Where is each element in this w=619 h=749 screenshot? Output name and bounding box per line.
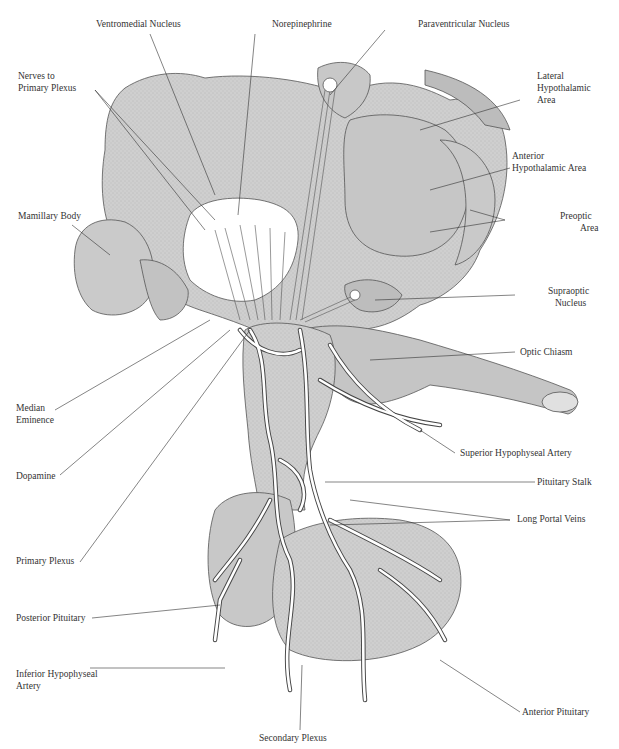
supraoptic-nerve-cells	[350, 290, 360, 300]
label-primary-plexus: Primary Plexus	[16, 555, 74, 567]
label-optic-chiasm: Optic Chiasm	[520, 346, 573, 358]
label-pituitary-stalk: Pituitary Stalk	[537, 476, 592, 488]
paraventricular-nerve-cells	[323, 78, 337, 92]
label-ventromedial-nucleus: Ventromedial Nucleus	[96, 18, 181, 30]
label-superior-hypophyseal-artery: Superior Hypophyseal Artery	[460, 447, 572, 459]
label-anterior-pituitary: Anterior Pituitary	[522, 706, 589, 718]
label-anterior-hypothalamic-area: AnteriorHypothalamic Area	[512, 150, 586, 174]
label-secondary-plexus: Secondary Plexus	[259, 732, 327, 744]
label-nerves-to-primary-plexus: Nerves toPrimary Plexus	[18, 70, 76, 94]
label-posterior-pituitary: Posterior Pituitary	[16, 612, 85, 624]
label-supraoptic-nucleus: SupraopticNucleus	[548, 285, 589, 309]
label-dopamine: Dopamine	[16, 470, 56, 482]
label-norepinephrine: Norepinephrine	[272, 18, 332, 30]
hypothalamus-pituitary-diagram	[0, 0, 619, 749]
pituitary-gland	[208, 493, 461, 661]
label-preoptic-area: PreopticArea	[560, 210, 598, 234]
label-median-eminence: MedianEminence	[16, 402, 54, 426]
label-mamillary-body: Mamillary Body	[18, 210, 81, 222]
label-lateral-hypothalamic-area: LateralHypothalamicArea	[537, 70, 591, 106]
pituitary-stalk	[243, 323, 335, 510]
label-inferior-hypophyseal-artery: Inferior HypophysealArtery	[16, 668, 98, 692]
label-paraventricular-nucleus: Paraventricular Nucleus	[418, 18, 510, 30]
label-long-portal-veins: Long Portal Veins	[517, 513, 585, 525]
